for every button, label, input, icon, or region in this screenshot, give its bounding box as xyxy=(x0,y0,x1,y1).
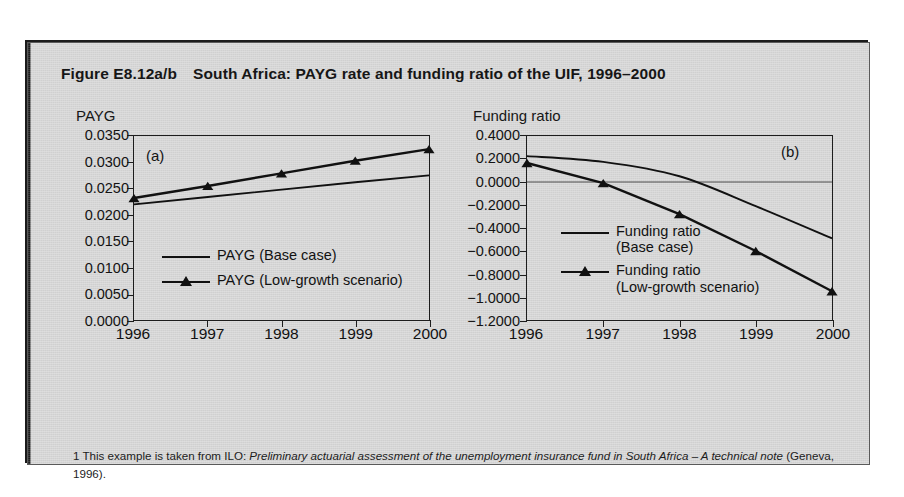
y-tick-label: 0.0050 xyxy=(85,287,129,302)
x-tick-label: 1998 xyxy=(264,325,298,343)
panel-a-x-axis-labels: 19961997199819992000 xyxy=(133,325,430,351)
legend-triangle-key-icon xyxy=(559,263,611,280)
y-tick-mark xyxy=(127,321,134,322)
y-tick-label: −0.2000 xyxy=(467,198,520,213)
legend-line-key-icon xyxy=(160,248,212,265)
panel-a-axis-title: PAYG xyxy=(76,107,115,124)
y-tick-label: 0.0350 xyxy=(85,128,129,143)
figure-title: Figure E8.12a/bSouth Africa: PAYG rate a… xyxy=(61,65,666,83)
data-point-marker xyxy=(674,210,685,218)
panel-a-y-axis-labels: 0.00000.00500.01000.01500.02000.02500.03… xyxy=(55,135,129,321)
y-tick-label: −0.4000 xyxy=(467,221,520,236)
footnote-title-italic: Preliminary actuarial assessment of the … xyxy=(249,449,783,462)
x-tick-label: 1998 xyxy=(662,325,696,343)
figure-number: Figure E8.12a/b xyxy=(61,65,177,82)
legend-label: Funding ratio(Low-growth scenario) xyxy=(616,262,759,294)
y-tick-mark xyxy=(127,268,134,269)
x-tick-label: 1996 xyxy=(509,325,543,343)
y-tick-mark xyxy=(520,275,527,276)
panel-b-x-axis-labels: 19961997199819992000 xyxy=(526,325,833,351)
panel-b-y-axis-labels: 0.40000.20000.0000−0.2000−0.4000−0.6000−… xyxy=(446,135,520,321)
x-tick-label: 2000 xyxy=(816,325,850,343)
y-tick-mark xyxy=(520,228,527,229)
figure-page: Figure E8.12a/bSouth Africa: PAYG rate a… xyxy=(0,0,904,497)
y-tick-label: 0.0200 xyxy=(85,207,129,222)
y-tick-mark xyxy=(127,162,134,163)
legend-item: Funding ratio(Base case) xyxy=(559,223,759,255)
panel-b-legend: Funding ratio(Base case) Funding ratio(L… xyxy=(559,223,759,302)
y-tick-mark xyxy=(520,298,527,299)
figure-title-text: South Africa: PAYG rate and funding rati… xyxy=(193,65,666,82)
y-tick-label: 0.0250 xyxy=(85,181,129,196)
y-tick-label: 0.0000 xyxy=(476,174,520,189)
y-tick-mark xyxy=(520,205,527,206)
x-tick-label: 1999 xyxy=(739,325,773,343)
y-tick-label: −0.8000 xyxy=(467,267,520,282)
y-tick-mark xyxy=(520,321,527,322)
y-tick-label: 0.0100 xyxy=(85,261,129,276)
chart-panel-a: PAYG (a) 0.00000.00500.01000.01500.02000… xyxy=(50,107,450,397)
legend-triangle-key-icon xyxy=(160,273,212,290)
legend-item: PAYG (Base case) xyxy=(160,247,403,265)
y-tick-mark xyxy=(127,295,134,296)
y-tick-label: 0.0150 xyxy=(85,234,129,249)
y-tick-mark xyxy=(127,135,134,136)
panel-b-axis-title: Funding ratio xyxy=(473,107,561,124)
y-tick-label: 0.0300 xyxy=(85,154,129,169)
chart-panel-b: Funding ratio (b) 0.40000.20000.0000−0.2… xyxy=(441,107,861,397)
y-tick-mark xyxy=(520,158,527,159)
x-tick-label: 1997 xyxy=(190,325,224,343)
figure-footnote: 1 This example is taken from ILO: Prelim… xyxy=(73,447,863,483)
y-tick-mark xyxy=(127,215,134,216)
y-tick-label: −0.6000 xyxy=(467,244,520,259)
x-tick-label: 1996 xyxy=(116,325,150,343)
y-tick-label: 0.2000 xyxy=(476,151,520,166)
y-tick-label: 0.4000 xyxy=(476,128,520,143)
y-tick-mark xyxy=(520,182,527,183)
x-tick-label: 1999 xyxy=(339,325,373,343)
y-tick-label: −1.0000 xyxy=(467,291,520,306)
legend-label: PAYG (Low-growth scenario) xyxy=(217,272,403,288)
y-tick-mark xyxy=(520,251,527,252)
panel-a-legend: PAYG (Base case) PAYG (Low-growth scenar… xyxy=(160,247,403,297)
legend-item: Funding ratio(Low-growth scenario) xyxy=(559,262,759,294)
y-tick-mark xyxy=(127,188,134,189)
x-tick-label: 1997 xyxy=(586,325,620,343)
legend-item: PAYG (Low-growth scenario) xyxy=(160,272,403,290)
legend-line-key-icon xyxy=(559,224,611,241)
footnote-part-1: 1 This example is taken from ILO: xyxy=(73,449,249,462)
figure-panel: Figure E8.12a/bSouth Africa: PAYG rate a… xyxy=(27,42,870,465)
y-tick-mark xyxy=(127,241,134,242)
legend-label: PAYG (Base case) xyxy=(217,247,337,263)
legend-label: Funding ratio(Base case) xyxy=(616,223,701,255)
y-tick-mark xyxy=(520,135,527,136)
